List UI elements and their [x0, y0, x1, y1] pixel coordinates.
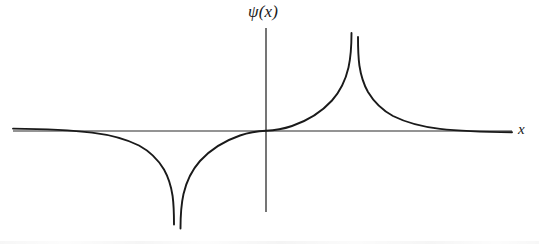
x-axis-label: x	[518, 121, 525, 138]
curve-branch-left-tail	[13, 129, 174, 225]
function-plot	[0, 0, 539, 248]
figure-canvas: ψ(x) x	[0, 0, 539, 248]
curve-branch-right-tail	[358, 37, 512, 132]
y-axis-label: ψ(x)	[248, 2, 278, 22]
